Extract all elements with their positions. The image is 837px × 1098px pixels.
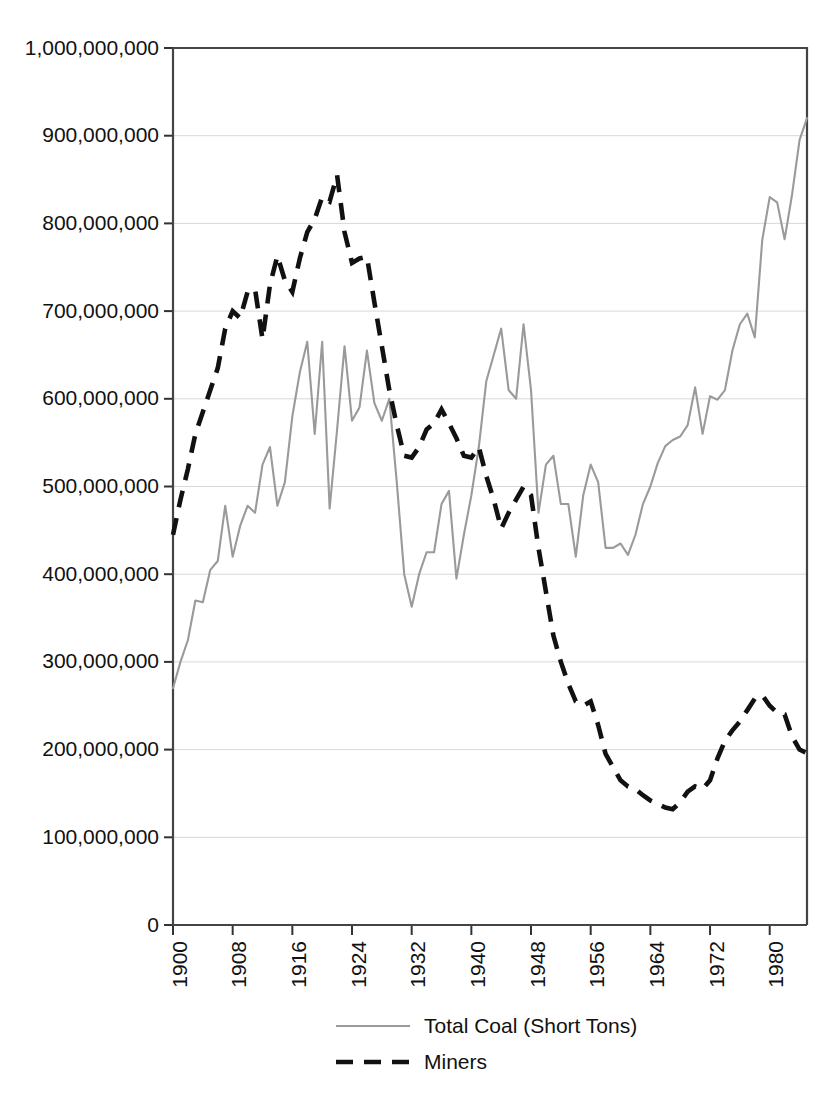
x-tick-label: 1924 <box>347 941 370 988</box>
y-tick-label: 400,000,000 <box>42 562 159 585</box>
y-tick-label: 0 <box>147 913 159 936</box>
x-tick-label: 1980 <box>764 941 787 988</box>
legend-label-total-coal: Total Coal (Short Tons) <box>424 1014 637 1037</box>
y-tick-label: 500,000,000 <box>42 474 159 497</box>
y-tick-label: 300,000,000 <box>42 649 159 672</box>
line-chart: 1,000,000,000900,000,000800,000,000700,0… <box>0 0 837 1098</box>
y-tick-label: 800,000,000 <box>42 211 159 234</box>
x-tick-label: 1908 <box>227 941 250 988</box>
x-tick-label: 1932 <box>406 941 429 988</box>
y-tick-label: 100,000,000 <box>42 825 159 848</box>
x-tick-label: 1972 <box>705 941 728 988</box>
chart-figure: 1,000,000,000900,000,000800,000,000700,0… <box>0 0 837 1098</box>
x-tick-label: 1948 <box>526 941 549 988</box>
y-tick-label: 900,000,000 <box>42 123 159 146</box>
x-tick-label: 1916 <box>287 941 310 988</box>
y-tick-label: 600,000,000 <box>42 386 159 409</box>
y-tick-label: 700,000,000 <box>42 299 159 322</box>
x-tick-label: 1900 <box>168 941 191 988</box>
chart-background <box>0 0 837 1098</box>
y-tick-label: 1,000,000,000 <box>25 36 159 59</box>
legend-label-miners: Miners <box>424 1050 487 1073</box>
x-tick-label: 1940 <box>466 941 489 988</box>
x-tick-label: 1964 <box>645 941 668 988</box>
y-tick-label: 200,000,000 <box>42 737 159 760</box>
x-tick-label: 1956 <box>585 941 608 988</box>
